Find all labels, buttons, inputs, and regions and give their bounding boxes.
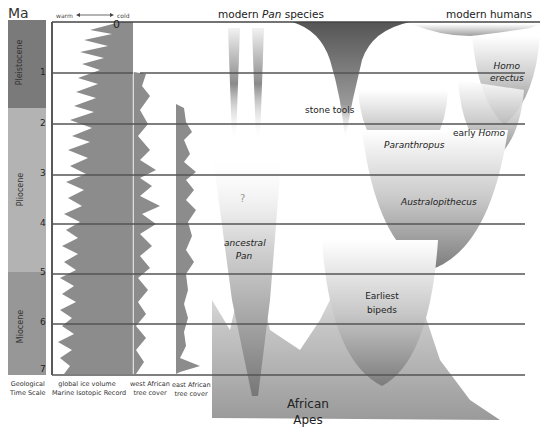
caption-line: Marine Isotopic Record (52, 389, 122, 398)
caption-line: tree cover (130, 389, 170, 398)
caption-line: east African (172, 381, 210, 390)
diagram-canvas (0, 0, 543, 444)
caption-east-african: east African tree cover (172, 381, 210, 399)
caption-line: Time Scale (10, 389, 45, 398)
tick-6: 6 (40, 317, 46, 327)
label-paranthropus: Paranthropus (384, 140, 444, 150)
warm-label: warm (56, 12, 73, 19)
epoch-miocene: Miocene (16, 309, 25, 345)
epoch-pliocene: Pliocene (16, 170, 25, 210)
caption-west-african: west African tree cover (130, 380, 170, 398)
tick-2: 2 (40, 118, 46, 128)
label-part: erectus (490, 72, 524, 84)
warm-cold-arrow-icon (76, 12, 114, 18)
tick-0: 0 (113, 18, 120, 31)
caption-line: Geological (10, 380, 45, 389)
caption-line: global ice volume (52, 380, 122, 389)
tick-3: 3 (40, 168, 46, 178)
tick-7: 7 (40, 364, 46, 374)
label-part: early (453, 128, 478, 138)
label-part: ancestral (224, 237, 264, 250)
label-modern-humans: modern humans (446, 8, 532, 20)
tick-1: 1 (40, 67, 46, 77)
epoch-pleistocene: Pleistocene (15, 38, 24, 88)
axis-unit-label: Ma (8, 5, 29, 21)
label-part: Apes (278, 412, 338, 428)
label-question-mark: ? (240, 193, 245, 204)
caption-line: west African (130, 380, 170, 389)
label-part: bipeds (362, 303, 402, 317)
label-part: Homo (490, 60, 524, 72)
label-early-homo: early Homo (453, 128, 505, 138)
tick-5: 5 (40, 267, 46, 277)
label-ancestral-pan: ancestral Pan (224, 237, 264, 263)
cold-label: cold (117, 12, 129, 19)
label-part: Earliest (362, 289, 402, 303)
label-part: Homo (478, 128, 505, 138)
label-earliest-bipeds: Earliest bipeds (362, 289, 402, 317)
caption-geological-time-scale: Geological Time Scale (10, 380, 45, 398)
label-part: African (278, 396, 338, 412)
caption-line: tree cover (172, 390, 210, 399)
tick-4: 4 (40, 218, 46, 228)
label-part: Pan (224, 250, 264, 263)
label-homo-erectus: Homo erectus (490, 60, 524, 84)
label-african-apes: African Apes (278, 396, 338, 428)
label-australopithecus: Australopithecus (401, 197, 477, 207)
label-part: species (281, 8, 324, 20)
label-part: modern (218, 8, 262, 20)
caption-ice-volume: global ice volume Marine Isotopic Record (52, 380, 122, 398)
label-part: Pan (262, 8, 281, 20)
label-modern-pan-species: modern Pan species (218, 8, 324, 20)
label-stone-tools: stone tools (305, 105, 355, 115)
